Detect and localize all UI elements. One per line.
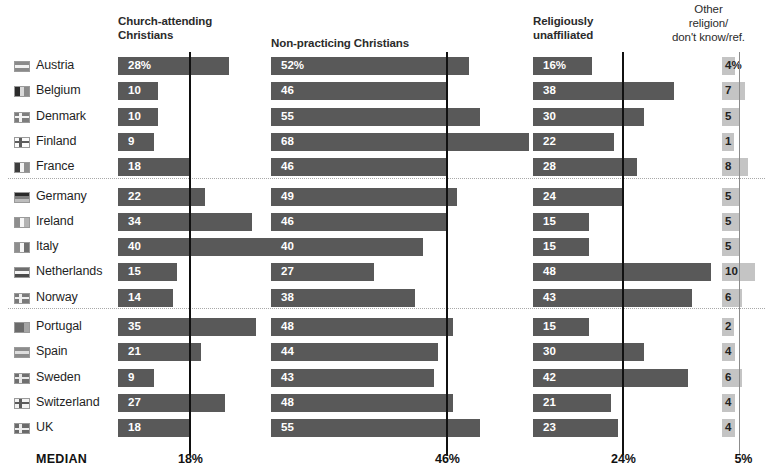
country-label: Belgium [36, 83, 80, 97]
bar-value-label: 40 [128, 240, 141, 252]
column-header-other-religion: Other religion/ don't know/ref. [648, 2, 769, 44]
bar-value-label: 38 [281, 291, 294, 303]
bar-value-label: 27 [128, 396, 141, 408]
bar-non-practicing-christians [271, 343, 438, 361]
bar-value-label: 46 [281, 160, 294, 172]
chart-row: Sweden943426 [0, 367, 769, 391]
bar-value-label: 28% [128, 59, 151, 71]
country-label: Finland [36, 134, 76, 148]
bar-non-practicing-christians [271, 394, 453, 412]
flag-austria-icon [14, 61, 30, 72]
country-label: France [36, 159, 74, 173]
country-label: Spain [36, 344, 67, 358]
column-header-line-1: Other [648, 2, 769, 16]
column-header-line-3: don't know/ref. [648, 30, 769, 44]
chart-row: Finland968221 [0, 131, 769, 155]
chart-container: Church-attending Christians Non-practici… [0, 0, 769, 475]
bar-value-label: 34 [128, 215, 141, 227]
median-reference-line [446, 52, 448, 455]
bar-church-attending-christians [118, 238, 276, 256]
bar-value-label: 5 [725, 190, 731, 202]
bar-non-practicing-christians [271, 419, 480, 437]
bar-value-label: 4 [725, 345, 731, 357]
bar-value-label: 49 [281, 190, 294, 202]
bar-value-label: 15 [543, 215, 556, 227]
flag-switzerland-icon [14, 398, 30, 409]
group-separator [8, 308, 765, 309]
country-label: Switzerland [36, 395, 100, 409]
bar-value-label: 28 [543, 160, 556, 172]
bar-religiously-unaffiliated [533, 238, 589, 256]
bar-value-label: 22 [128, 190, 141, 202]
bar-value-label: 27 [281, 265, 294, 277]
bar-value-label: 43 [543, 291, 556, 303]
flag-netherlands-icon [14, 267, 30, 278]
median-row-label: MEDIAN [36, 452, 87, 466]
column-header-church-attending: Church-attending Christians [118, 14, 268, 42]
chart-row: Switzerland2748214 [0, 392, 769, 416]
bar-value-label: 43 [281, 371, 294, 383]
bar-non-practicing-christians [271, 158, 446, 176]
bar-value-label: 4 [725, 396, 731, 408]
bar-value-label: 21 [543, 396, 556, 408]
bar-church-attending-christians [118, 289, 173, 307]
chart-row: Portugal3548152 [0, 316, 769, 340]
bar-value-label: 6 [725, 291, 731, 303]
chart-row: Denmark1055305 [0, 106, 769, 130]
chart-row: Belgium1046387 [0, 80, 769, 104]
flag-finland-icon [14, 137, 30, 148]
bar-value-label: 23 [543, 421, 556, 433]
bar-church-attending-christians [118, 133, 154, 151]
column-header-line-1: Religiously [533, 14, 653, 28]
bar-value-label: 46 [281, 84, 294, 96]
column-header-line-2: Christians [118, 28, 268, 42]
bar-value-label: 10 [128, 84, 141, 96]
country-label: Ireland [36, 214, 74, 228]
flag-germany-icon [14, 192, 30, 203]
bar-value-label: 46 [281, 215, 294, 227]
bar-value-label: 38 [543, 84, 556, 96]
bar-value-label: 10 [725, 265, 738, 277]
country-label: Austria [36, 58, 74, 72]
median-reference-line [189, 52, 191, 455]
bar-value-label: 48 [281, 396, 294, 408]
chart-row: Netherlands15274810 [0, 261, 769, 285]
bar-religiously-unaffiliated [533, 289, 692, 307]
bar-non-practicing-christians [271, 82, 446, 100]
bar-value-label: 18 [128, 160, 141, 172]
bar-non-practicing-christians [271, 318, 453, 336]
bar-non-practicing-christians [271, 188, 457, 206]
bar-value-label: 5 [725, 215, 731, 227]
bar-value-label: 6 [725, 371, 731, 383]
bar-non-practicing-christians [271, 213, 446, 231]
bar-value-label: 16% [543, 59, 566, 71]
chart-row: Italy4040155 [0, 236, 769, 260]
median-value: 24% [611, 452, 636, 466]
flag-sweden-icon [14, 373, 30, 384]
bar-value-label: 22 [543, 135, 556, 147]
column-header-line-2: unaffiliated [533, 28, 653, 42]
median-value: 18% [178, 452, 203, 466]
bar-value-label: 48 [543, 265, 556, 277]
median-value: 5% [734, 452, 752, 466]
flag-spain-icon [14, 347, 30, 358]
column-header-unaffiliated: Religiously unaffiliated [533, 14, 653, 42]
group-separator [8, 178, 765, 179]
country-label: Sweden [36, 370, 81, 384]
flag-norway-icon [14, 293, 30, 304]
chart-row: Austria28%52%16%4% [0, 55, 769, 79]
bar-value-label: 48 [281, 320, 294, 332]
bar-value-label: 55 [281, 110, 294, 122]
bar-value-label: 30 [543, 110, 556, 122]
bar-value-label: 35 [128, 320, 141, 332]
country-label: Norway [36, 290, 78, 304]
bar-value-label: 9 [128, 135, 134, 147]
country-label: Denmark [36, 109, 86, 123]
flag-belgium-icon [14, 86, 30, 97]
bar-value-label: 52% [281, 59, 304, 71]
country-label: Italy [36, 239, 58, 253]
flag-france-icon [14, 162, 30, 173]
bar-value-label: 5 [725, 240, 731, 252]
median-reference-line [739, 52, 740, 455]
bar-value-label: 8 [725, 160, 731, 172]
